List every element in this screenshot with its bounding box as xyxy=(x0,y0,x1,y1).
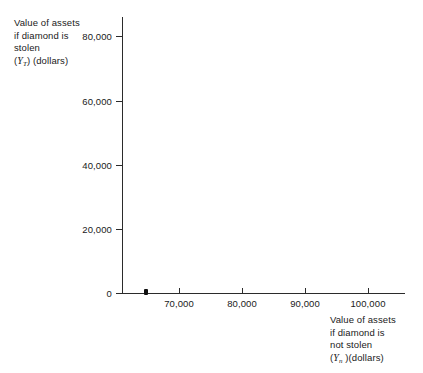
x-axis-tick-label: 80,000 xyxy=(207,298,277,309)
x-symbol: Yn xyxy=(333,352,342,363)
chart-figure: 0 20,000 40,000 60,000 80,000 70,000 80,… xyxy=(0,0,423,373)
x-axis-title-line: if diamond is xyxy=(330,327,396,340)
y-axis-tick xyxy=(116,101,122,102)
x-symbol-subscript: n xyxy=(339,357,343,365)
y-axis-title-line: Value of assets xyxy=(14,17,80,30)
x-axis-title-symbol-line: (Yn )(dollars) xyxy=(330,352,396,366)
y-axis-tick xyxy=(116,229,122,230)
y-symbol: YT xyxy=(17,55,27,66)
y-axis-tick-label: 0 xyxy=(52,288,112,299)
y-axis-tick xyxy=(116,293,122,294)
x-axis-tick xyxy=(368,288,369,294)
data-point-endowment xyxy=(144,289,148,295)
x-axis-tick xyxy=(179,288,180,294)
y-axis-tick xyxy=(116,36,122,37)
x-axis-tick-label: 90,000 xyxy=(270,298,340,309)
y-axis-tick xyxy=(116,165,122,166)
y-axis-tick-label: 60,000 xyxy=(52,96,112,107)
y-axis-title: Value of assets if diamond is stolen (YT… xyxy=(14,17,80,68)
y-symbol-subscript: T xyxy=(23,60,27,68)
y-axis-tick-label: 40,000 xyxy=(52,160,112,171)
y-axis-tick-label: 20,000 xyxy=(52,224,112,235)
y-axis-title-symbol-line: (YT) (dollars) xyxy=(14,55,80,69)
x-symbol-post: )(dollars) xyxy=(343,352,384,363)
y-axis-title-line: if diamond is xyxy=(14,30,80,43)
x-axis-tick xyxy=(305,288,306,294)
x-axis-title: Value of assets if diamond is not stolen… xyxy=(330,314,396,365)
x-axis-tick xyxy=(242,288,243,294)
x-axis-tick-label: 70,000 xyxy=(144,298,214,309)
y-axis-title-line: stolen xyxy=(14,42,80,55)
y-symbol-post: ) (dollars) xyxy=(27,55,68,66)
x-axis-tick-label: 100,000 xyxy=(333,298,403,309)
y-axis-line xyxy=(122,17,123,294)
x-axis-title-line: not stolen xyxy=(330,339,396,352)
x-axis-title-line: Value of assets xyxy=(330,314,396,327)
x-axis-line xyxy=(122,293,405,294)
